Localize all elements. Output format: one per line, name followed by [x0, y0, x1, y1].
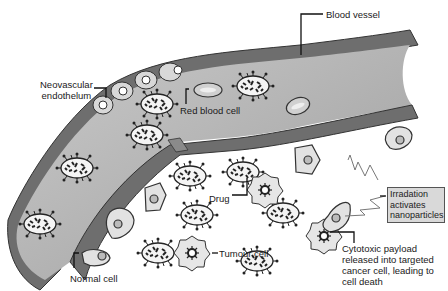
tumour-cell	[247, 173, 283, 208]
irradiation-box: Irradation activates nanoparticles	[387, 187, 445, 223]
nanoparticle	[176, 200, 219, 231]
label-normal-cell: Normal cell	[70, 273, 118, 284]
label-drug: Drug	[209, 193, 230, 204]
tumour-cell	[174, 236, 210, 271]
label-neovascular-endothelium: Neovascular endothelum	[40, 79, 93, 101]
irradiation-arrows	[345, 155, 385, 216]
label-blood-vessel: Blood vessel	[326, 9, 380, 20]
nanoparticle	[169, 161, 212, 192]
label-tumour-cell: Tumour cell	[219, 248, 268, 259]
label-red-blood-cell: Red blood cell	[180, 105, 240, 116]
nanoparticle	[137, 238, 180, 269]
label-cytotoxic-payload: Cytotoxic payload released into targeted…	[342, 243, 434, 287]
